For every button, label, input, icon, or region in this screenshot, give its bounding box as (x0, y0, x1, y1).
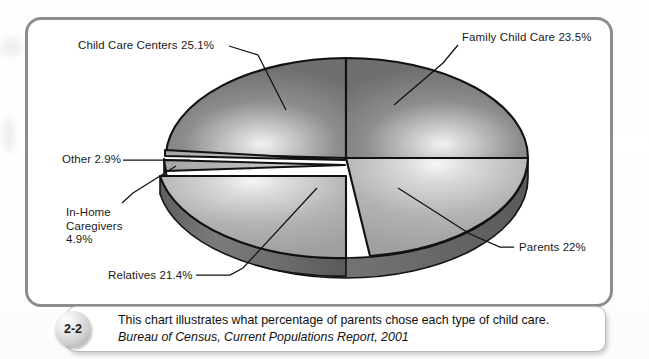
label-family-child-care: Family Child Care 23.5% (462, 31, 592, 45)
slice-parents[interactable] (346, 158, 528, 256)
label-parents: Parents 22% (519, 241, 586, 255)
caption-sentence: This chart illustrates what percentage o… (118, 312, 588, 329)
label-in-home-line3: 4.9% (66, 233, 123, 247)
label-relatives: Relatives 21.4% (108, 269, 193, 283)
slice-child-care-centers[interactable] (166, 58, 346, 158)
label-child-care-centers: Child Care Centers 25.1% (78, 39, 214, 53)
label-in-home-line2: Caregivers (66, 220, 123, 234)
caption-source: Bureau of Census, Current Populations Re… (118, 329, 588, 346)
label-in-home-caregivers: In-Home Caregivers 4.9% (66, 206, 123, 247)
slice-family-child-care[interactable] (346, 58, 528, 158)
figure-number-badge: 2-2 (55, 311, 91, 347)
pie-slices (160, 58, 528, 258)
label-other: Other 2.9% (62, 153, 121, 167)
caption-text-block: This chart illustrates what percentage o… (118, 312, 588, 345)
label-in-home-line1: In-Home (66, 206, 123, 220)
figure-caption: 2-2 This chart illustrates what percenta… (46, 306, 606, 354)
slice-in-home-caregivers[interactable] (164, 160, 345, 171)
